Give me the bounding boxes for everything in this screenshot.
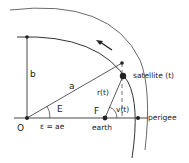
point-circle <box>120 61 124 65</box>
label-F: F <box>94 106 99 116</box>
label-perigee: perigee <box>148 113 177 122</box>
auxiliary-circle <box>10 8 148 150</box>
orbit-diagram: b a E O ε = ae F earth r(t) v(t) satelli… <box>0 0 189 163</box>
orbit-ellipse <box>17 37 135 158</box>
point-b-top <box>25 35 29 39</box>
label-a: a <box>69 81 75 91</box>
label-E: E <box>57 104 63 114</box>
label-epsilon: ε = ae <box>40 122 65 131</box>
earth-dot <box>103 116 108 121</box>
perigee-dot <box>136 116 140 120</box>
point-O <box>25 116 29 120</box>
label-satellite: satellite (t) <box>133 71 174 80</box>
label-b: b <box>30 69 36 79</box>
motion-arrow <box>100 42 112 50</box>
label-nu: v(t) <box>116 105 129 114</box>
label-r: r(t) <box>97 88 109 97</box>
label-earth: earth <box>92 123 112 132</box>
label-O: O <box>17 123 24 133</box>
angle-E-arc <box>47 106 50 118</box>
diagram-canvas: b a E O ε = ae F earth r(t) v(t) satelli… <box>0 0 189 163</box>
satellite-dot <box>120 73 126 79</box>
